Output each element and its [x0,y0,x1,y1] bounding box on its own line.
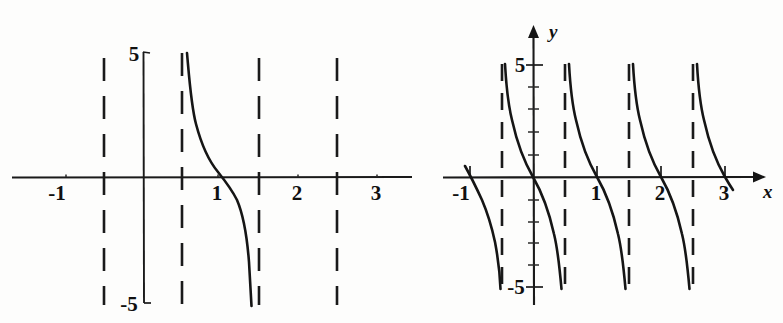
right-label-y-axis: y [547,21,558,42]
left-label-x-neg1: -1 [48,181,66,205]
graphs-svg: -1 1 2 3 5 -5 [0,0,783,323]
right-label-x-axis: x [762,181,773,202]
figure-container: -1 1 2 3 5 -5 [0,0,783,323]
right-label-y-bottom: -5 [507,275,525,299]
left-y-top-cap [143,52,150,53]
left-x-axis [12,177,400,178]
left-label-x-1: 1 [212,181,223,205]
right-label-x-3: 3 [719,181,730,205]
left-curve-branch [187,53,252,306]
right-plot: y x -1 1 2 3 5 -5 [398,21,773,305]
left-label-x-3: 3 [371,181,382,205]
left-label-y-bottom: -5 [120,292,138,316]
right-label-x-2: 2 [655,181,666,205]
left-label-y-top: 5 [129,42,140,66]
right-label-x-1: 1 [591,181,602,205]
left-label-x-2: 2 [292,181,303,205]
right-y-axis-arrowhead [528,25,539,38]
right-label-x-neg1: -1 [452,181,470,205]
right-label-y-top: 5 [515,53,526,77]
left-y-axis [144,52,145,303]
right-curve-branch--1.5--0.5 [465,166,501,289]
right-curve-branch-2.5-3.5 [697,64,733,190]
left-plot: -1 1 2 3 5 -5 [12,42,400,316]
